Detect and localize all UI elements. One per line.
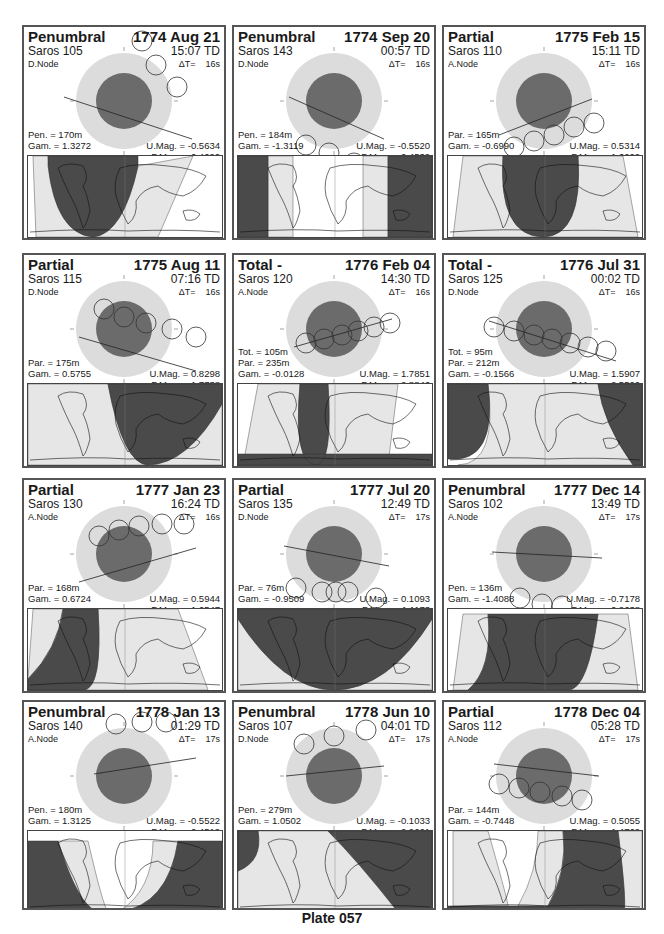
eclipse-time: 16:24 TD (171, 497, 220, 511)
eclipse-panel: Partial 1778 Dec 04 Saros 112 05:28 TD A… (442, 700, 646, 910)
eclipse-date: 1778 Dec 04 (554, 703, 640, 720)
eclipse-type: Penumbral (238, 28, 316, 45)
stat-left: Par. = 168m (28, 582, 91, 593)
duration-gamma-stats: Par. = 144mGam. = -0.7448 (448, 804, 514, 826)
eclipse-type: Penumbral (28, 28, 106, 45)
eclipse-date: 1775 Aug 11 (134, 256, 220, 273)
lunar-node: A.Node (238, 287, 268, 297)
stat-right: U.Mag. = 1.7851 (359, 368, 430, 379)
visibility-world-map (447, 608, 643, 691)
delta-t: ΔT= 17s (389, 734, 430, 744)
saros-number: Saros 125 (448, 272, 503, 286)
eclipse-type: Total - (448, 256, 492, 273)
eclipse-type: Total - (238, 256, 282, 273)
stat-right: U.Mag. = 0.5314 (569, 140, 640, 151)
eclipse-panel: Penumbral 1778 Jun 10 Saros 107 04:01 TD… (232, 700, 436, 910)
stat-left: Gam. = 1.0502 (238, 815, 301, 826)
duration-gamma-stats: Tot. = 105mPar. = 235mGam. = -0.0128 (238, 346, 304, 379)
lunar-node: A.Node (28, 512, 58, 522)
stat-left: Tot. = 105m (238, 346, 304, 357)
stat-right: U.Mag. = -0.5522 (146, 815, 220, 826)
duration-gamma-stats: Tot. = 95mPar. = 212mGam. = -0.1566 (448, 346, 514, 379)
eclipse-date: 1776 Feb 04 (345, 256, 430, 273)
stat-left: Gam. = 1.3125 (28, 815, 91, 826)
saros-number: Saros 135 (238, 497, 293, 511)
delta-t: ΔT= 17s (599, 734, 640, 744)
stat-left: Gam. = -0.0128 (238, 368, 304, 379)
visibility-world-map (237, 383, 433, 466)
stat-left: Par. = 76m (238, 582, 304, 593)
eclipse-type: Penumbral (28, 703, 106, 720)
visibility-world-map (27, 608, 223, 691)
stat-left: Gam. = -1.3119 (238, 140, 304, 151)
eclipse-panel: Penumbral 1778 Jan 13 Saros 140 01:29 TD… (22, 700, 226, 910)
lunar-node: D.Node (238, 512, 269, 522)
duration-gamma-stats: Pen. = 136mGam. = -1.4088 (448, 582, 514, 604)
delta-t: ΔT= 16s (179, 512, 220, 522)
eclipse-panel: Partial 1777 Jul 20 Saros 135 12:49 TD D… (232, 478, 436, 693)
lunar-node: A.Node (448, 59, 478, 69)
visibility-world-map (237, 830, 433, 910)
lunar-node: D.Node (448, 287, 479, 297)
saros-number: Saros 110 (448, 44, 502, 58)
saros-number: Saros 115 (28, 272, 82, 286)
visibility-world-map (237, 608, 433, 691)
stat-left: Gam. = -0.1566 (448, 368, 514, 379)
eclipse-type: Partial (28, 481, 74, 498)
delta-t: ΔT= 16s (389, 59, 430, 69)
stat-left: Pen. = 279m (238, 804, 301, 815)
eclipse-type: Partial (448, 703, 494, 720)
delta-t: ΔT= 17s (389, 512, 430, 522)
stat-right: U.Mag. = -0.5520 (356, 140, 430, 151)
duration-gamma-stats: Par. = 168mGam. = 0.6724 (28, 582, 91, 604)
stat-left: Gam. = 0.6724 (28, 593, 91, 604)
stat-left: Gam. = -0.6990 (448, 140, 514, 151)
stat-left: Gam. = 0.5755 (28, 368, 91, 379)
duration-gamma-stats: Pen. = 279mGam. = 1.0502 (238, 804, 301, 826)
eclipse-time: 07:16 TD (171, 272, 220, 286)
eclipse-panel: Partial 1775 Feb 15 Saros 110 15:11 TD A… (442, 25, 646, 240)
stat-left: Par. = 144m (448, 804, 514, 815)
stat-left: Pen. = 184m (238, 129, 304, 140)
saros-number: Saros 107 (238, 719, 293, 733)
eclipse-panel: Partial 1777 Jan 23 Saros 130 16:24 TD A… (22, 478, 226, 693)
stat-right: U.Mag. = 0.1093 (359, 593, 430, 604)
stat-left: Par. = 175m (28, 357, 91, 368)
saros-number: Saros 130 (28, 497, 83, 511)
delta-t: ΔT= 16s (179, 59, 220, 69)
visibility-world-map (237, 155, 433, 238)
eclipse-date: 1778 Jun 10 (345, 703, 430, 720)
delta-t: ΔT= 16s (599, 287, 640, 297)
visibility-world-map (447, 383, 643, 466)
eclipse-time: 15:11 TD (592, 44, 640, 58)
lunar-node: D.Node (28, 59, 59, 69)
eclipse-panel: Penumbral 1774 Sep 20 Saros 143 00:57 TD… (232, 25, 436, 240)
stat-right: U.Mag. = 0.8298 (149, 368, 220, 379)
eclipse-type: Penumbral (238, 703, 316, 720)
stat-left: Pen. = 136m (448, 582, 514, 593)
eclipse-date: 1777 Dec 14 (554, 481, 640, 498)
eclipse-panel: Total - 1776 Jul 31 Saros 125 00:02 TD D… (442, 253, 646, 468)
duration-gamma-stats: Pen. = 184mGam. = -1.3119 (238, 129, 304, 151)
delta-t: ΔT= 17s (179, 734, 220, 744)
eclipse-time: 14:30 TD (381, 272, 430, 286)
delta-t: ΔT= 16s (599, 59, 640, 69)
eclipse-date: 1777 Jan 23 (136, 481, 220, 498)
eclipse-date: 1774 Aug 21 (133, 28, 220, 45)
lunar-node: A.Node (28, 734, 58, 744)
lunar-node: A.Node (448, 512, 478, 522)
eclipse-date: 1776 Jul 31 (560, 256, 640, 273)
delta-t: ΔT= 16s (389, 287, 430, 297)
eclipse-panel: Penumbral 1774 Aug 21 Saros 105 15:07 TD… (22, 25, 226, 240)
plate-title: Plate 057 (0, 910, 664, 926)
stat-left: Par. = 165m (448, 129, 514, 140)
eclipse-time: 15:07 TD (171, 44, 220, 58)
eclipse-date: 1778 Jan 13 (136, 703, 220, 720)
lunar-node: D.Node (238, 59, 269, 69)
stat-left: Tot. = 95m (448, 346, 514, 357)
eclipse-time: 12:49 TD (381, 497, 430, 511)
stat-right: U.Mag. = -0.7178 (566, 593, 640, 604)
saros-number: Saros 102 (448, 497, 503, 511)
visibility-world-map (27, 155, 223, 238)
visibility-world-map (447, 155, 643, 238)
